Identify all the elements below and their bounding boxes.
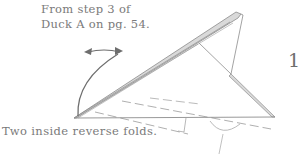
origami-diagram (0, 0, 299, 154)
double-headed-arrow-icon (84, 47, 123, 55)
inner-flap (199, 43, 275, 117)
reverse-fold-arc-icon (210, 121, 240, 130)
valley-fold-line-upper (122, 101, 271, 129)
pointer-line (219, 134, 223, 154)
valley-fold-line-lower (95, 112, 188, 134)
top-edge-band (74, 12, 241, 118)
curved-fold-arrow-icon (78, 54, 118, 116)
valley-fold-line-ext (150, 98, 200, 104)
baseline-edge (74, 117, 275, 118)
fold-marker-tick (178, 118, 186, 132)
